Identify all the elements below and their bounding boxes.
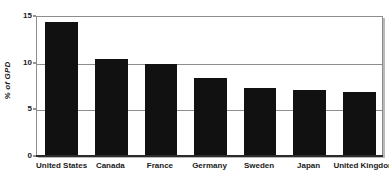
y-tick-label-15: 15 bbox=[23, 12, 32, 20]
bar-united-kingdom bbox=[343, 92, 376, 155]
bars-layer bbox=[37, 17, 382, 155]
bar-sweden bbox=[244, 88, 277, 155]
x-label-france: France bbox=[135, 162, 185, 171]
x-axis-labels: United StatesCanadaFranceGermanySwedenJa… bbox=[36, 160, 383, 180]
plot-area bbox=[36, 16, 383, 156]
x-label-united-kingdom: United Kingdom bbox=[333, 162, 383, 171]
y-axis-title-text: % of GPD bbox=[3, 61, 12, 99]
y-tick-label-0: 0 bbox=[28, 152, 32, 160]
bar-germany bbox=[194, 78, 227, 155]
x-axis-baseline bbox=[36, 155, 383, 157]
bar-france bbox=[145, 64, 178, 155]
y-axis-title: % of GPD bbox=[0, 0, 14, 160]
x-label-japan: Japan bbox=[284, 162, 334, 171]
bar-japan bbox=[293, 90, 326, 155]
x-label-sweden: Sweden bbox=[234, 162, 284, 171]
y-axis-ticks: 051015 bbox=[14, 0, 36, 186]
x-label-germany: Germany bbox=[185, 162, 235, 171]
x-label-canada: Canada bbox=[86, 162, 136, 171]
bar-canada bbox=[95, 59, 128, 155]
y-tick-label-5: 5 bbox=[28, 105, 32, 113]
x-label-united-states: United States bbox=[36, 162, 86, 171]
y-tick-label-10: 10 bbox=[23, 59, 32, 67]
bar-united-states bbox=[45, 22, 78, 155]
bar-chart: % of GPD 051015 United StatesCanadaFranc… bbox=[0, 0, 389, 186]
